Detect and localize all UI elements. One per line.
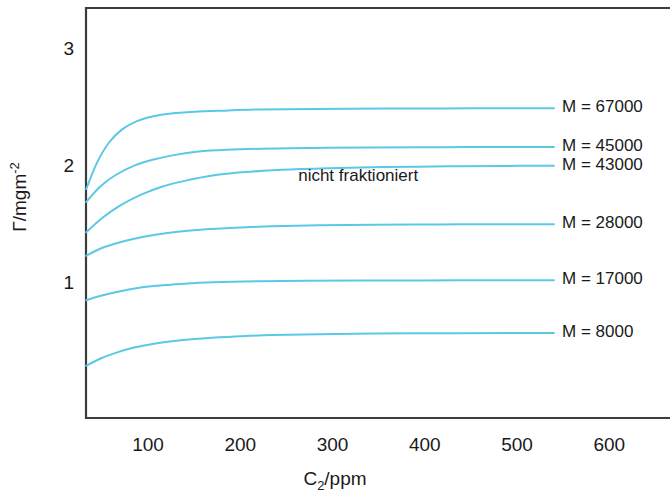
y-tick-label: 3: [34, 38, 74, 60]
series-label: M = 67000: [562, 97, 643, 117]
y-axis-title-base: Γ/mgm: [9, 174, 30, 232]
series-curve: [86, 224, 554, 256]
series-label: M = 8000: [562, 322, 633, 342]
y-axis-title-exponent: -2: [7, 162, 22, 173]
plot-canvas: [0, 0, 670, 499]
x-tick-label: 200: [210, 434, 270, 456]
series-label: M = 45000: [562, 136, 643, 156]
series-label: M = 17000: [562, 269, 643, 289]
series-label: M = 28000: [562, 213, 643, 233]
x-tick-label: 100: [118, 434, 178, 456]
chart-figure: Γ/mgm-2 C2/ppm 123 100200300400500600 M …: [0, 0, 670, 499]
series-curve: [86, 280, 554, 300]
y-tick-label: 2: [34, 155, 74, 177]
x-tick-label: 500: [487, 434, 547, 456]
x-tick-label: 400: [395, 434, 455, 456]
y-axis-title: Γ/mgm-2: [9, 137, 31, 257]
x-tick-label: 600: [579, 434, 639, 456]
x-axis-title: C2/ppm: [0, 468, 670, 490]
data-curves: [86, 108, 554, 365]
x-axis-title-rest: /ppm: [324, 468, 366, 489]
series-curve: [86, 333, 554, 366]
x-axis-title-base: C: [303, 468, 317, 489]
series-label: M = 43000: [562, 155, 643, 175]
chart-annotation: nicht fraktioniert: [298, 166, 418, 186]
x-tick-label: 300: [303, 434, 363, 456]
y-tick-label: 1: [34, 272, 74, 294]
